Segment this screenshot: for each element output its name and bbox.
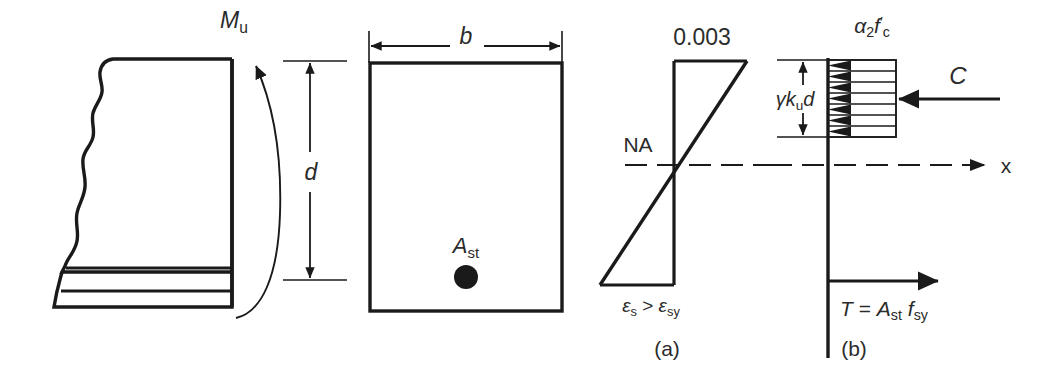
x-axis-label: x (1001, 154, 1012, 177)
steel-area-label: Ast (451, 233, 480, 261)
stress-diagram-group: α2f′c γkud (770, 13, 1012, 360)
cross-section-group: b Ast (369, 23, 562, 311)
neutral-axis-label: NA (623, 133, 652, 156)
beam-elevation-group: Mu (54, 7, 280, 318)
concrete-stress-label: α2f′c (854, 13, 890, 40)
width-label: b (460, 23, 473, 49)
compression-force-label: C (949, 62, 967, 89)
moment-label: Mu (220, 7, 248, 36)
top-strain-label: 0.003 (673, 24, 731, 50)
depth-dimension-group: d (283, 61, 347, 280)
caption-a: (a) (654, 337, 680, 360)
reinforcing-bar-dot (454, 265, 478, 289)
strain-diagram-group: 0.003 NA εs > εsy (a) (600, 24, 770, 360)
beam-analysis-diagram: Mu d b Ast (0, 0, 1038, 381)
depth-label: d (305, 159, 319, 185)
stress-block-depth-label: γkud (776, 88, 816, 113)
tension-force-label: T = Ast fsy (840, 297, 929, 323)
stress-block-arrowheads (828, 61, 851, 137)
beam-bottom-edge (54, 59, 232, 307)
figure-canvas: Mu d b Ast (0, 0, 1038, 381)
steel-strain-label: εs > εsy (622, 295, 680, 319)
caption-b: (b) (841, 337, 867, 360)
moment-arc (236, 66, 280, 318)
beam-elevation-outline (62, 59, 232, 272)
